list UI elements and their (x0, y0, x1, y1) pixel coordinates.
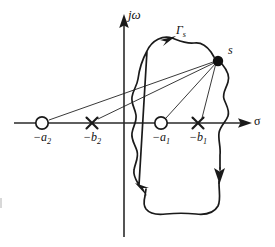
vector-from-pole-b2 (98, 62, 216, 119)
axes-group (14, 14, 252, 237)
figure-canvas (0, 0, 275, 247)
contour-label-base: Γ (176, 23, 183, 37)
zero-a1-marker (155, 117, 167, 129)
zero-a1-label-prefix: − (152, 130, 160, 144)
test-point-label: s (228, 44, 233, 56)
scan-edge-mark (0, 198, 2, 208)
pole-b2-label-prefix: − (83, 130, 91, 144)
zero-a2-label-subscript: 2 (47, 137, 51, 146)
zero-a2-label: −a2 (33, 131, 51, 146)
test-point-s-marker (213, 56, 223, 66)
real-axis-label: σ (254, 115, 260, 127)
zero-a1-label-subscript: 1 (166, 137, 170, 146)
zero-a2-label-prefix: − (33, 130, 41, 144)
zero-a2-marker (36, 117, 48, 129)
pole-b2-label: −b2 (83, 131, 101, 146)
contour-label: Γs (176, 24, 186, 39)
vector-from-zero-a1 (166, 63, 216, 118)
contour-label-subscript: s (183, 30, 186, 39)
pole-b1-label-subscript: 1 (203, 137, 207, 146)
pole-b1-label-prefix: − (189, 130, 197, 144)
vectors-group (49, 61, 216, 120)
zero-a1-label: −a1 (152, 131, 170, 146)
contour-arrow-bottom-left (135, 183, 149, 196)
imaginary-axis-label: jω (128, 8, 141, 21)
pole-b2-label-subscript: 2 (97, 137, 101, 146)
s-plane-figure: jω σ Γs s −a2 −b2 −a1 −b1 (0, 0, 275, 247)
pole-b1-label: −b1 (189, 131, 207, 146)
